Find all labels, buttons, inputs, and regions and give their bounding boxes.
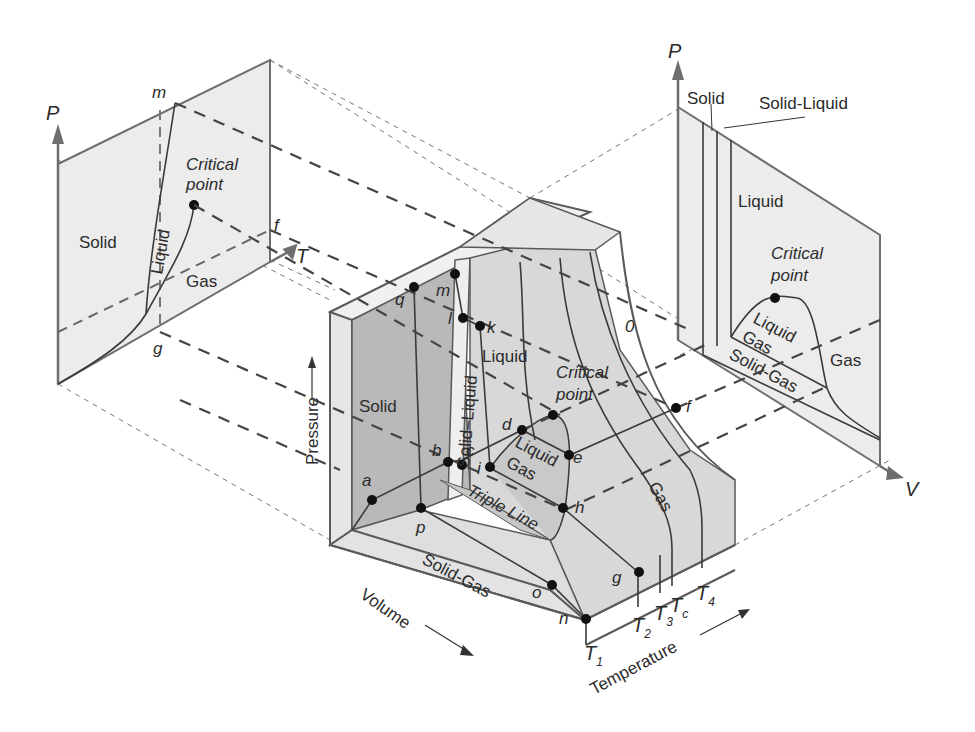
pt-gas-label: Gas [186,272,217,291]
point-l-marker [458,313,468,323]
pt-p-axis-label: P [46,102,60,124]
point-o-label: o [532,583,541,602]
point-n-marker [581,614,591,624]
pt-point-g: g [153,339,163,358]
surface-critical-label-2: point [555,385,594,404]
point-p-marker [416,503,426,513]
pt-critical-label-1: Critical [186,155,239,174]
point-h-marker [558,503,568,513]
point-d-label: d [502,415,512,434]
pressure-axis-label: Pressure [303,397,322,465]
pt-point-m: m [152,83,166,102]
pv-liquid-label: Liquid [738,192,783,211]
point-f-marker [671,403,681,413]
pv-p-axis-label: P [668,40,682,62]
surface-solid-label: Solid [359,397,397,416]
point-a-marker [367,495,377,505]
pressure-arrow-icon [308,356,316,368]
point-q-label: q [395,290,405,309]
point-b-marker [443,457,453,467]
pv-solid-label: Solid [687,89,725,108]
surface-liquid-label: Liquid [482,347,527,366]
surface-critical-label-1: Critical [556,363,609,382]
volume-arrow-icon [460,645,474,656]
point-g-marker [634,567,644,577]
volume-axis-label: Volume [357,585,414,633]
point-b-label: b [432,441,441,460]
pv-v-axis-arrow-icon [886,466,904,480]
point-i-marker [485,462,495,472]
pvt-diagram: P T Solid Liquid Gas Critical point m f … [0,0,975,732]
point-q-marker [409,282,419,292]
pt-projection-panel: P T Solid Liquid Gas Critical point m f … [46,60,310,384]
point-k-marker [475,321,485,331]
svg-text:T4: T4 [696,582,715,609]
pv-gas-label: Gas [830,351,861,370]
pv-v-axis-label: V [905,478,920,500]
pv-solid-liquid-label: Solid-Liquid [759,94,848,113]
point-o-marker [547,580,557,590]
p-axis-arrow-icon [52,124,64,144]
point-p-label: p [415,518,425,537]
svg-text:T1: T1 [584,642,603,669]
point-n-label: n [559,609,568,628]
pt-critical-label-2: point [185,175,224,194]
point-m-label: m [436,281,450,300]
pv-p-axis-arrow-icon [672,60,684,80]
point-h-label: h [575,498,584,517]
point-a-label: a [362,471,371,490]
point-m-marker [450,269,460,279]
svg-text:T2: T2 [632,614,651,641]
pv-critical-point-marker [770,293,780,303]
point-f-label: f [686,397,693,416]
temperature-arrow-icon [738,609,750,619]
pt-solid-label: Solid [79,233,117,252]
point-e-label: e [573,448,582,467]
pv-critical-label-1: Critical [771,244,824,263]
surface-critical-point-marker [548,410,558,420]
point-g-label: g [612,568,622,587]
pt-t-axis-label: T [296,245,310,267]
pv-critical-label-2: point [770,266,809,285]
